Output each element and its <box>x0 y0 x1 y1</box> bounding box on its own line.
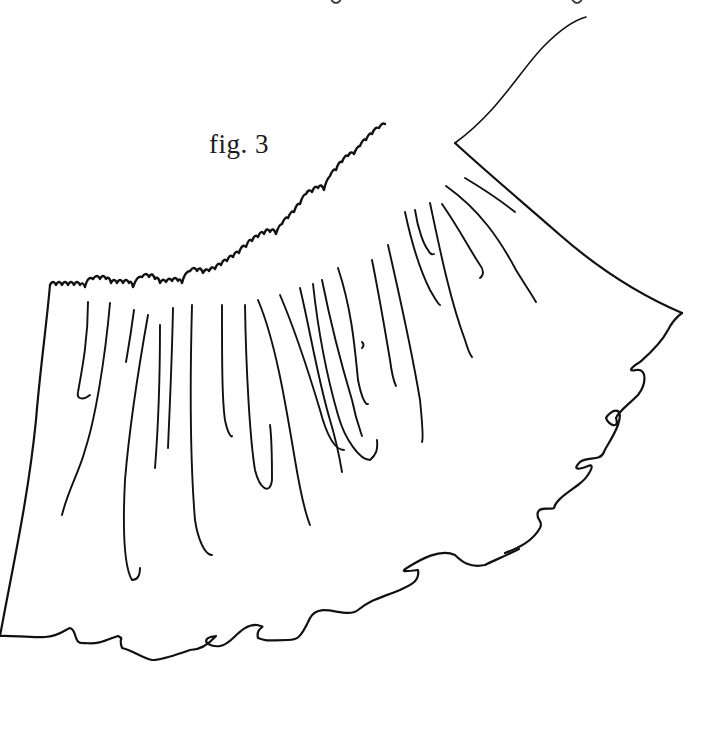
fold-line <box>78 302 90 398</box>
fold-line <box>430 203 472 357</box>
left-edge <box>0 285 50 636</box>
drape-curve <box>455 17 586 143</box>
hem-bottom <box>0 549 519 660</box>
fold-line <box>415 210 434 254</box>
fold-line <box>155 325 160 468</box>
fold-line <box>126 310 134 362</box>
fold-line <box>245 305 272 489</box>
fold-line <box>222 305 232 437</box>
fold-line <box>388 245 422 442</box>
fold-line <box>338 268 368 404</box>
fold-line <box>442 204 483 278</box>
hem-right <box>505 313 682 553</box>
fold-line <box>258 300 310 525</box>
fold-line <box>372 260 396 386</box>
fold-line <box>313 284 377 460</box>
skirt-drawing <box>0 0 704 744</box>
gathered-waistband <box>50 124 385 288</box>
fold-line <box>300 288 342 472</box>
fold-line <box>191 305 212 555</box>
fold-line <box>168 308 173 448</box>
fold-line <box>465 178 515 212</box>
